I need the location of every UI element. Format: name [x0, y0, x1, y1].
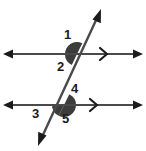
transversal-bottom-arrowhead: [38, 132, 47, 146]
shaded-sector-angle-1: [65, 42, 82, 54]
angle-label-4: 4: [71, 82, 78, 95]
geometry-diagram-svg: [0, 0, 146, 151]
upper-line-left-arrowhead: [3, 50, 13, 59]
geometry-figure: 1 2 4 3 5: [0, 0, 146, 151]
transversal-top-arrowhead: [93, 9, 102, 23]
angle-label-2: 2: [57, 60, 64, 73]
angle-label-5: 5: [62, 112, 69, 125]
lower-line-right-arrowhead: [133, 101, 143, 110]
upper-line-right-arrowhead: [133, 50, 143, 59]
angle-label-3: 3: [32, 107, 39, 120]
angle-label-1: 1: [64, 28, 71, 41]
lower-line-left-arrowhead: [3, 101, 13, 110]
